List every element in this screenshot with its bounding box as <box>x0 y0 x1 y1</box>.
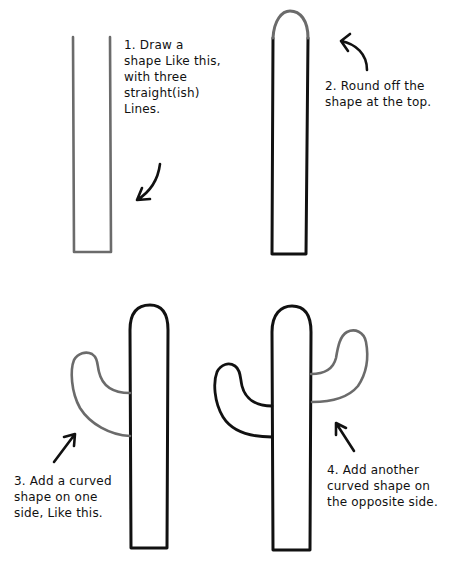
step-3-trunk <box>130 305 168 548</box>
step-2-rounded-top <box>273 11 308 38</box>
step-2-caption: 2. Round off the shape at the top. <box>325 78 431 110</box>
step-2-drawing <box>272 11 367 254</box>
step-4-caption: 4. Add another curved shape on the oppos… <box>327 462 438 510</box>
step-2-sides <box>272 38 308 254</box>
step-2-arrow-icon <box>341 34 367 70</box>
step-4-trunk <box>272 306 311 550</box>
step-3-arrow-icon <box>54 434 75 462</box>
step-4-right-arm <box>311 330 367 402</box>
step-4-drawing <box>215 306 367 550</box>
step-3-caption: 3. Add a curved shape on one side, Like … <box>14 473 112 521</box>
step-1-arrow-icon <box>137 164 160 200</box>
step-4-arrow-icon <box>336 423 354 451</box>
step-1-u-shape <box>73 37 111 252</box>
step-4-left-arm <box>215 364 272 437</box>
step-1-caption: 1. Draw a shape Like this, with three st… <box>124 37 221 117</box>
step-3-left-arm <box>72 353 130 436</box>
